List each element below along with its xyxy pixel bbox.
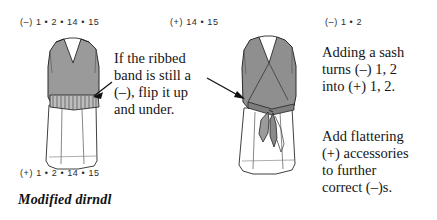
skirt-shape: [46, 105, 97, 169]
figure-caption: Modified dirndl: [18, 192, 112, 208]
label-middle-top: (+) 14 • 15: [170, 17, 219, 27]
ribbed-band: [50, 95, 99, 110]
text-block-right-bottom: Add flattering (+) accessories to furthe…: [322, 128, 436, 196]
text-block-center: If the ribbed band is still a (–), flip …: [114, 50, 226, 118]
dirndl-ribbed-band-illustration: [34, 33, 116, 173]
dirndl-sash-illustration: [228, 30, 314, 176]
illustration-page: (–) 1 • 2 • 14 • 15 (+) 14 • 15 (–) 1 • …: [0, 0, 437, 220]
text-block-right-top: Adding a sash turns (–) 1, 2 into (+) 1,…: [322, 44, 434, 95]
figure-dirndl-with-ribbed-band: [34, 33, 116, 173]
figure-dirndl-with-sash: [228, 30, 314, 176]
label-right-top: (–) 1 • 2: [325, 17, 362, 27]
label-left-top: (–) 1 • 2 • 14 • 15: [20, 17, 99, 27]
